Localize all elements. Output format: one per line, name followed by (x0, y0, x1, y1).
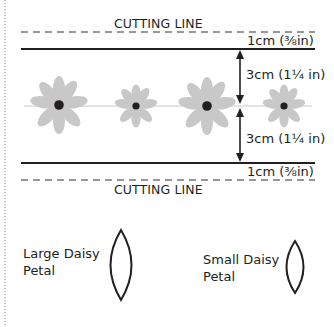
large-petal-label-line1: Large Daisy (23, 245, 100, 262)
top-cutting-line-label: CUTTING LINE (111, 16, 206, 31)
large-petal-label-line2: Petal (23, 262, 100, 279)
large-petal-label: Large Daisy Petal (23, 245, 100, 279)
small-petal-label-line1: Small Daisy (203, 251, 279, 268)
lower-half-measure: 3cm (1¼ in) (246, 131, 325, 146)
bottom-cutting-line-label: CUTTING LINE (111, 182, 206, 197)
small-petal-label: Small Daisy Petal (203, 251, 279, 285)
small-daisy-icon (262, 85, 306, 128)
large-daisy-icon (177, 77, 236, 135)
bottom-margin-measure: 1cm (⅜in) (247, 164, 314, 179)
large-daisy-icon (29, 76, 88, 134)
small-daisy-icon (114, 85, 158, 128)
upper-half-measure: 3cm (1¼ in) (246, 67, 325, 82)
lower-measure-arrow-icon (236, 108, 244, 162)
small-petal-label-line2: Petal (203, 268, 279, 285)
top-margin-measure: 1cm (⅜in) (247, 33, 314, 48)
small-petal-outline-icon (287, 241, 304, 293)
large-petal-outline-icon (111, 230, 132, 300)
upper-measure-arrow-icon (236, 50, 244, 104)
